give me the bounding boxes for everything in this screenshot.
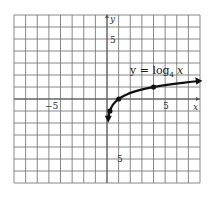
- equation-base: 4: [170, 71, 175, 79]
- y-tick-neg5: 5: [117, 154, 123, 164]
- y-tick-pos5: 5: [110, 35, 116, 45]
- x-axis-arrow-icon: [196, 97, 200, 101]
- equation-label: y = log4x: [129, 64, 184, 79]
- x-axis-label: x: [193, 102, 198, 112]
- log-graph: y x −5 5 5 5 y = log4x: [0, 0, 213, 197]
- data-point: [116, 96, 121, 101]
- equation-var: x: [177, 64, 184, 77]
- curve-arrow-right-icon: [195, 77, 202, 85]
- data-point: [151, 84, 156, 89]
- equation-main: y = log: [129, 64, 170, 77]
- x-tick-pos5: 5: [163, 101, 169, 111]
- curve-arrow-down-icon: [105, 116, 112, 123]
- y-axis-label: y: [109, 14, 116, 24]
- data-point: [107, 108, 112, 113]
- x-tick-neg5: −5: [45, 101, 59, 111]
